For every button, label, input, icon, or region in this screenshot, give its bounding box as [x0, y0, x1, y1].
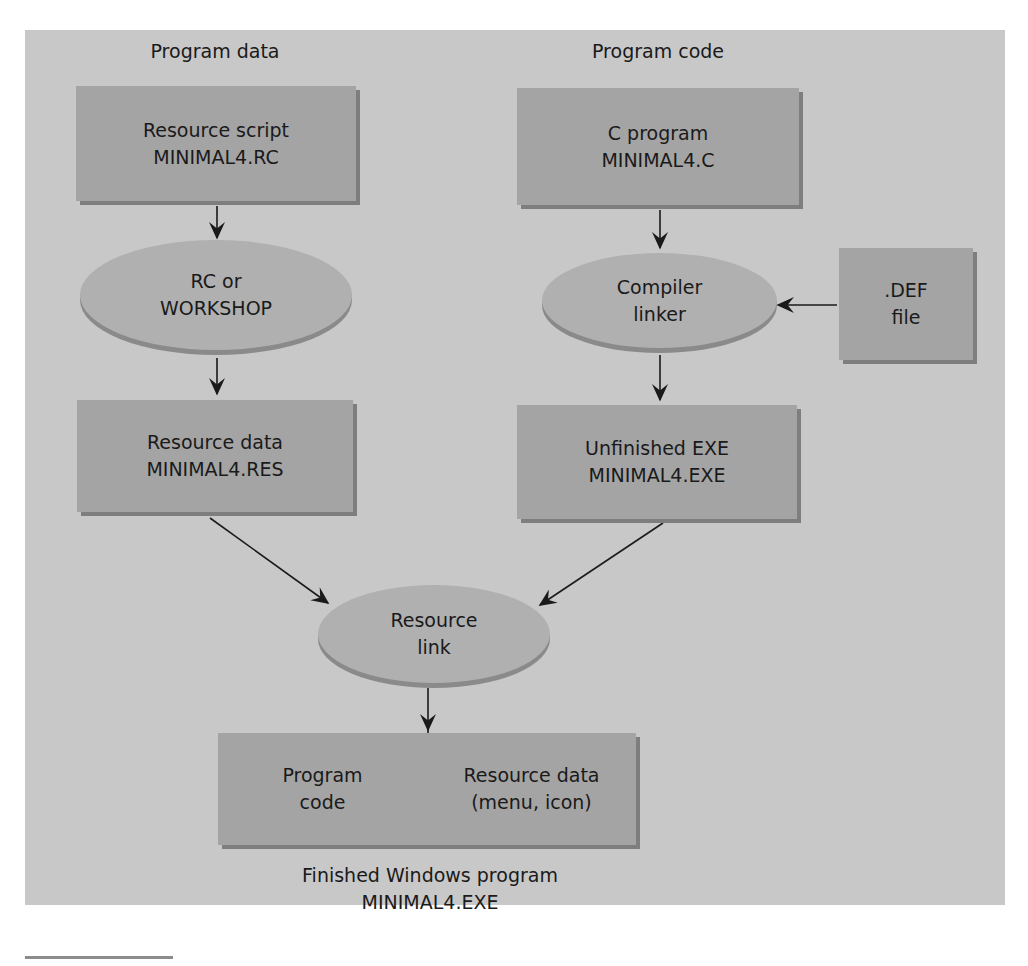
- caption-line1: Finished Windows program: [230, 862, 630, 889]
- finished-left-line2: code: [300, 789, 346, 816]
- resource-data-line2: MINIMAL4.RES: [146, 456, 283, 483]
- compiler-linker-ellipse: Compiler linker: [542, 253, 777, 348]
- finished-left-line1: Program: [282, 762, 362, 789]
- compiler-linker-line2: linker: [633, 301, 685, 328]
- resource-data-line1: Resource data: [147, 429, 283, 456]
- unfinished-exe-line1: Unfinished EXE: [585, 435, 729, 462]
- finished-right-line1: Resource data: [464, 762, 600, 789]
- caption-line2: MINIMAL4.EXE: [230, 889, 630, 916]
- resource-script-title: Resource script: [143, 117, 289, 144]
- def-file-box: .DEF file: [839, 248, 973, 360]
- finished-program-box: Program code Resource data (menu, icon): [218, 733, 636, 845]
- resource-link-ellipse: Resource link: [318, 585, 550, 683]
- heading-program-code: Program code: [548, 38, 768, 65]
- c-program-box: C program MINIMAL4.C: [517, 88, 799, 205]
- c-program-title: C program: [608, 120, 708, 147]
- resource-link-line1: Resource: [390, 607, 477, 634]
- rc-workshop-line1: RC or: [191, 268, 242, 295]
- def-file-line2: file: [892, 304, 921, 331]
- def-file-line1: .DEF: [884, 277, 928, 304]
- finished-resource-data: Resource data (menu, icon): [427, 762, 636, 816]
- finished-caption: Finished Windows program MINIMAL4.EXE: [230, 862, 630, 916]
- unfinished-exe-box: Unfinished EXE MINIMAL4.EXE: [517, 405, 797, 519]
- unfinished-exe-line2: MINIMAL4.EXE: [589, 462, 726, 489]
- finished-program-code: Program code: [218, 762, 427, 816]
- rc-workshop-line2: WORKSHOP: [160, 295, 272, 322]
- resource-script-file: MINIMAL4.RC: [153, 144, 278, 171]
- compiler-linker-line1: Compiler: [617, 274, 703, 301]
- resource-data-box: Resource data MINIMAL4.RES: [77, 400, 353, 512]
- heading-program-data: Program data: [105, 38, 325, 65]
- c-program-file: MINIMAL4.C: [601, 147, 714, 174]
- finished-right-line2: (menu, icon): [471, 789, 592, 816]
- rc-workshop-ellipse: RC or WORKSHOP: [80, 240, 352, 350]
- resource-script-box: Resource script MINIMAL4.RC: [76, 86, 356, 201]
- resource-link-line2: link: [417, 634, 451, 661]
